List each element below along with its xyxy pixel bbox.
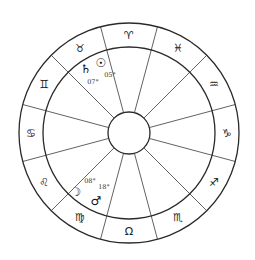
sign-virgo-icon: ♍︎ [75,211,85,224]
planet-moon-degree: 08° [84,177,96,185]
spoke-line [144,148,207,211]
center-hub [108,112,150,154]
planet-mars-degree: 18° [98,183,110,191]
sign-capricorn-icon: ♑︎ [222,127,232,140]
sign-pisces-icon: ♓︎ [173,42,183,55]
planet-saturn-icon: ♄ [81,62,92,76]
spoke-line [23,105,109,128]
sign-scorpio-icon: ♏︎ [173,211,183,224]
planet-mars-icon: ♂ [91,194,102,208]
zodiac-chart: ♈︎♓︎♒︎♑︎♐︎♏︎Ω♍︎♌︎♋︎♊︎♉︎ ♄07°☉05°☽08°♂18° [0,0,255,260]
sign-taurus-icon: ♉︎ [75,42,85,55]
sign-libra-icon: Ω [125,225,133,238]
spoke-line [134,153,157,239]
planet-sun-degree: 05° [104,71,116,79]
sign-aries-icon: ♈︎ [124,29,134,42]
spoke-line [51,148,114,211]
sign-gemini-icon: ♊︎ [39,78,49,91]
planet-moon-icon: ☽ [71,185,82,199]
spoke-line [144,55,207,118]
spoke-line [23,138,109,161]
spoke-line [134,27,157,113]
sign-aquarius-icon: ♒︎ [209,78,219,91]
sign-leo-icon: ♌︎ [39,176,49,189]
sign-sagittarius-icon: ♐︎ [209,176,219,189]
spoke-line [149,105,235,128]
spoke-line [149,138,235,161]
spoke-line [101,153,124,239]
planet-sun-icon: ☉ [96,56,107,70]
sign-cancer-icon: ♋︎ [26,127,36,140]
planet-saturn-degree: 07° [87,78,99,86]
